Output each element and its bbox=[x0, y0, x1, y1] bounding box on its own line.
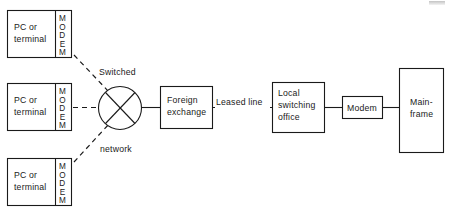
diagram-canvas: PC or terminal M O D E M PC or terminal … bbox=[0, 0, 449, 217]
modem-label: Modem bbox=[347, 103, 377, 113]
foreign-exchange-group: Foreign exchange bbox=[161, 87, 213, 129]
terminal-bottom-modem-letter-m2: M bbox=[59, 196, 66, 205]
terminal-bottom-group: PC or terminal M O D E M bbox=[8, 159, 72, 206]
terminal-middle-label-line2: terminal bbox=[14, 107, 47, 117]
mainframe-group: Main- frame bbox=[400, 69, 444, 153]
local-switching-office-label-line3: office bbox=[278, 112, 300, 122]
foreign-exchange-label-line1: Foreign bbox=[167, 95, 198, 105]
terminal-top-label-line1: PC or bbox=[14, 22, 37, 32]
terminal-top-modem-letter-m2: M bbox=[59, 48, 66, 57]
terminal-top-label-line2: terminal bbox=[14, 34, 47, 44]
terminal-bottom-label-line1: PC or bbox=[14, 170, 37, 180]
terminal-middle-modem-strip: M O D E M bbox=[59, 87, 66, 130]
modem-group: Modem bbox=[343, 97, 383, 119]
switched-network-label-line1: Switched bbox=[99, 67, 136, 77]
local-switching-office-group: Local switching office bbox=[273, 83, 325, 133]
terminal-top-group: PC or terminal M O D E M bbox=[8, 11, 72, 58]
terminal-middle-group: PC or terminal M O D E M bbox=[8, 84, 72, 131]
switched-network-symbol bbox=[99, 87, 142, 130]
terminal-middle-modem-letter-m2: M bbox=[59, 121, 66, 130]
terminal-bottom-label-line2: terminal bbox=[14, 182, 47, 192]
terminal-top-modem-strip: M O D E M bbox=[59, 14, 66, 57]
network-diagram: PC or terminal M O D E M PC or terminal … bbox=[0, 0, 449, 217]
leased-line-label: Leased line bbox=[216, 97, 263, 107]
local-switching-office-label-line2: switching bbox=[278, 100, 316, 110]
mainframe-label-line2: frame bbox=[410, 109, 433, 119]
switched-network-label-line2: network bbox=[100, 144, 132, 154]
local-switching-office-label-line1: Local bbox=[278, 88, 300, 98]
mainframe-label-line1: Main- bbox=[410, 97, 433, 107]
foreign-exchange-label-line2: exchange bbox=[167, 107, 206, 117]
terminal-bottom-modem-strip: M O D E M bbox=[59, 162, 66, 205]
link-terminal-bottom-to-network bbox=[74, 124, 109, 162]
terminal-middle-label-line1: PC or bbox=[14, 95, 37, 105]
